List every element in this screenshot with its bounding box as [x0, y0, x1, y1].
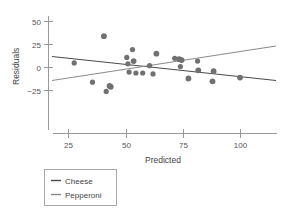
data-point: [124, 55, 129, 60]
data-point: [195, 67, 201, 73]
fit-line-pepperoni: [52, 46, 276, 81]
x-tick-label-25: 25: [64, 141, 73, 150]
data-point: [186, 76, 192, 82]
data-point: [72, 60, 77, 65]
x-tick-label-50: 50: [122, 141, 131, 150]
data-point: [147, 63, 152, 68]
data-point: [130, 47, 135, 52]
data-point: [101, 33, 107, 39]
data-point: [131, 58, 137, 64]
x-axis-title: Predicted: [145, 155, 181, 165]
data-point: [127, 70, 132, 75]
data-point: [237, 75, 243, 81]
x-tick-label-100: 100: [234, 141, 248, 150]
data-point: [133, 70, 138, 75]
data-point: [178, 64, 183, 69]
y-axis: 50 25 0 −25 Residuals: [11, 16, 53, 130]
data-point: [154, 51, 160, 57]
data-point: [108, 84, 114, 90]
data-point: [179, 57, 185, 63]
legend-box: [45, 170, 117, 206]
residual-plot-figure: 50 25 0 −25 Residuals 25 50 75 100 Predi…: [0, 0, 283, 215]
scatter-points: [72, 33, 243, 94]
y-axis-title: Residuals: [11, 48, 21, 85]
y-tick-label-0: 0: [37, 64, 42, 73]
data-point: [210, 78, 216, 84]
y-tick-label-50: 50: [32, 18, 41, 27]
data-point: [150, 71, 155, 76]
data-point: [195, 59, 200, 64]
data-point: [125, 61, 130, 66]
x-tick-label-75: 75: [179, 141, 188, 150]
y-tick-label-neg25: −25: [27, 87, 41, 96]
legend-label-pepperoni: Pepperoni: [65, 191, 102, 200]
data-point: [104, 89, 109, 94]
data-point: [140, 70, 145, 75]
legend: Cheese Pepperoni: [45, 170, 117, 206]
y-tick-label-25: 25: [32, 41, 41, 50]
x-axis: 25 50 75 100 Predicted: [53, 129, 277, 165]
data-point: [90, 80, 95, 85]
chart-canvas: 50 25 0 −25 Residuals 25 50 75 100 Predi…: [0, 0, 283, 215]
legend-label-cheese: Cheese: [65, 177, 93, 186]
data-point: [211, 68, 217, 74]
fit-lines: [52, 46, 276, 81]
